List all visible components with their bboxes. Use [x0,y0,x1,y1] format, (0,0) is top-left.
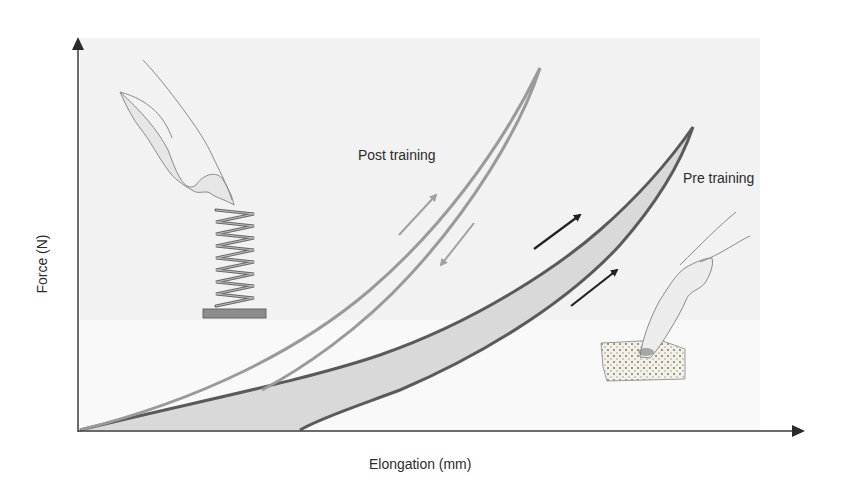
x-axis-label: Elongation (mm) [369,455,471,473]
post-training-label: Post training [358,146,436,164]
pre-training-label: Pre training [683,169,754,187]
spring-base [203,309,266,318]
x-axis-arrowhead [792,425,805,437]
force-elongation-diagram [0,0,848,496]
y-axis-label: Force (N) [33,228,51,300]
